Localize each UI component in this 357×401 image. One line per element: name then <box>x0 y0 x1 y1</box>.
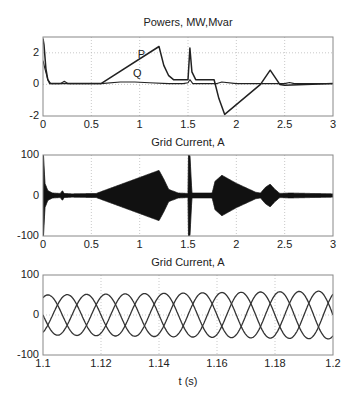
x-tick-label: 2 <box>221 238 251 250</box>
x-tick-label: 0.5 <box>76 118 106 130</box>
plot3-xlabel: t (s) <box>43 375 333 387</box>
y-tick-label: 100 <box>3 148 39 160</box>
x-tick-label: 2 <box>221 118 251 130</box>
y-tick-label: 0 <box>3 189 39 201</box>
annotation-p: P <box>138 48 145 60</box>
x-tick-label: 1.2 <box>318 357 348 369</box>
plot1-title: Powers, MW,Mvar <box>43 16 333 28</box>
x-tick-label: 1.18 <box>260 357 290 369</box>
x-tick-label: 1.12 <box>86 357 116 369</box>
y-tick-label: 0 <box>3 77 39 89</box>
y-tick-label: 0 <box>3 308 39 320</box>
x-tick-label: 1 <box>125 238 155 250</box>
figure: PQ Powers, MW,Mvar Grid Current, A Grid … <box>0 0 357 401</box>
y-tick-label: -2 <box>3 109 39 121</box>
x-tick-label: 1.5 <box>173 238 203 250</box>
y-tick-label: 2 <box>3 46 39 58</box>
current-envelope <box>43 155 333 236</box>
x-tick-label: 1.16 <box>202 357 232 369</box>
plots-canvas: PQ <box>0 0 357 401</box>
x-tick-label: 2.5 <box>270 238 300 250</box>
plot3-title: Grid Current, A <box>43 256 333 268</box>
x-tick-label: 1.14 <box>144 357 174 369</box>
x-tick-label: 3 <box>318 118 348 130</box>
x-tick-label: 0.5 <box>76 238 106 250</box>
x-tick-label: 3 <box>318 238 348 250</box>
x-tick-label: 1.5 <box>173 118 203 130</box>
y-tick-label: -100 <box>3 229 39 241</box>
x-tick-label: 2.5 <box>270 118 300 130</box>
x-tick-label: 1 <box>125 118 155 130</box>
y-tick-label: 100 <box>3 268 39 280</box>
y-tick-label: -100 <box>3 348 39 360</box>
plot2-title: Grid Current, A <box>43 136 333 148</box>
annotation-q: Q <box>133 67 142 79</box>
